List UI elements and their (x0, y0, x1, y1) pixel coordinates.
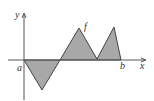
y-axis-label: y (14, 9, 20, 20)
x-axis-label: x (139, 60, 145, 71)
a-label: a (17, 62, 22, 73)
function-graph: y x f a b (0, 0, 154, 101)
function-label: f (84, 21, 88, 32)
b-label: b (120, 60, 125, 71)
shaded-area (24, 27, 121, 90)
